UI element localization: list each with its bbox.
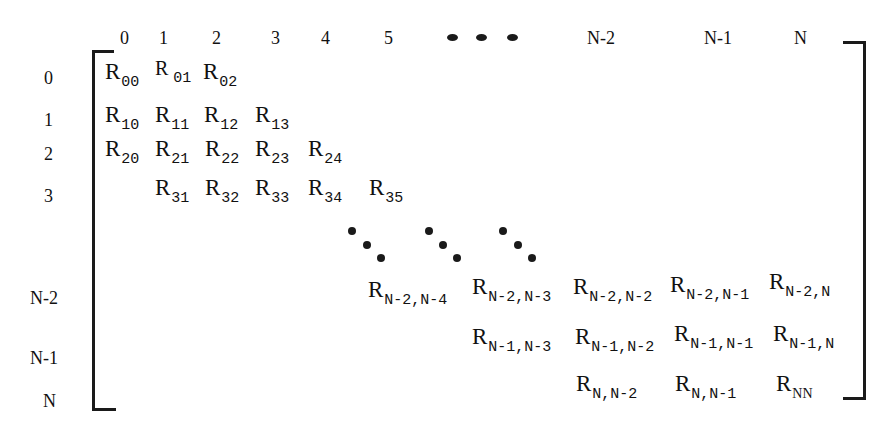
diagonal-dot-icon <box>453 254 461 262</box>
matrix-cell: RN-2,N-3 <box>472 275 551 298</box>
matrix-cell: R32 <box>205 176 239 199</box>
matrix-cell: R31 <box>155 176 189 199</box>
row-header-n-1: N-1 <box>30 349 58 367</box>
matrix-cell: R22 <box>205 137 239 160</box>
matrix-cell: R21 <box>155 137 189 160</box>
matrix-cell: RN-1,N-2 <box>575 325 654 348</box>
diagonal-dot-icon <box>377 254 385 262</box>
matrix-cell: R24 <box>308 137 342 160</box>
matrix-cell: RN-2,N <box>769 270 830 293</box>
diagonal-dot-icon <box>439 241 447 249</box>
row-header-1: 1 <box>44 111 53 129</box>
matrix-cell: RN-1,N-3 <box>472 325 551 348</box>
diagonal-dot-icon <box>514 241 522 249</box>
diagonal-dot-icon <box>348 227 356 235</box>
ellipsis-dot-icon <box>447 34 458 41</box>
row-header-n-2: N-2 <box>30 289 58 307</box>
matrix-cell: R34 <box>308 176 342 199</box>
row-header-2: 2 <box>44 145 53 163</box>
matrix-cell: R23 <box>255 137 289 160</box>
ellipsis-dot-icon <box>507 34 518 41</box>
column-header-1: 1 <box>159 29 168 47</box>
column-header-0: 0 <box>120 29 129 47</box>
matrix-cell: R33 <box>255 176 289 199</box>
diagonal-dot-icon <box>499 227 507 235</box>
column-header-5: 5 <box>384 29 393 47</box>
matrix-cell: R13 <box>255 103 289 126</box>
matrix-cell: RN,N-2 <box>576 372 637 395</box>
diagonal-dot-icon <box>425 227 433 235</box>
column-header-n: N <box>794 29 807 47</box>
matrix-cell: RN,N-1 <box>675 372 736 395</box>
column-header-n-2: N-2 <box>587 29 615 47</box>
matrix-cell: R01 <box>155 58 191 79</box>
matrix-cell: R10 <box>105 103 139 126</box>
matrix-cell: R20 <box>105 137 139 160</box>
row-header-n: N <box>43 392 56 410</box>
column-header-4: 4 <box>321 29 330 47</box>
matrix-cell: R00 <box>105 60 139 83</box>
column-header-3: 3 <box>271 29 280 47</box>
ellipsis-dot-icon <box>476 34 487 41</box>
matrix-cell: R12 <box>204 103 238 126</box>
diagonal-dot-icon <box>528 254 536 262</box>
matrix-cell: RN-1,N <box>773 322 834 345</box>
row-header-0: 0 <box>44 69 53 87</box>
row-header-3: 3 <box>44 187 53 205</box>
matrix-cell: R35 <box>369 176 403 199</box>
column-header-n-1: N-1 <box>704 29 732 47</box>
matrix-cell: RN-2,N-2 <box>573 275 652 298</box>
matrix-cell: RN-2,N-4 <box>368 278 447 301</box>
matrix-cell: RNN <box>776 372 813 395</box>
matrix-cell: R02 <box>203 60 237 83</box>
column-header-2: 2 <box>212 29 221 47</box>
matrix-cell: RN-1,N-1 <box>674 322 753 345</box>
diagonal-dot-icon <box>363 241 371 249</box>
matrix-cell: R11 <box>155 103 189 126</box>
matrix-cell: RN-2,N-1 <box>670 273 749 296</box>
